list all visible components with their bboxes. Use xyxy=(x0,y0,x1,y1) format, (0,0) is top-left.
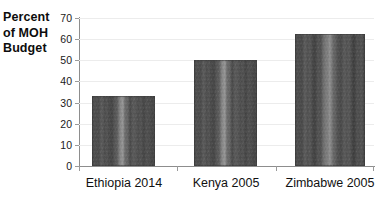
x-axis-line xyxy=(79,166,375,167)
y-tick-label-0: 0 xyxy=(66,161,72,172)
y-axis-title-line-1: Percent xyxy=(3,10,67,26)
x-tick-mark-start xyxy=(79,166,80,171)
x-tick-mark-2 xyxy=(276,166,277,171)
x-axis-label-kenya-2005: Kenya 2005 xyxy=(193,176,260,190)
y-tick-label-40: 40 xyxy=(60,76,72,87)
y-tick-label-10: 10 xyxy=(60,140,72,151)
gridline-70 xyxy=(79,18,374,19)
x-tick-mark-1 xyxy=(177,166,178,171)
y-tick-mark-20 xyxy=(75,124,79,125)
y-tick-label-30: 30 xyxy=(60,97,72,108)
x-axis-label-zimbabwe-2005: Zimbabwe 2005 xyxy=(286,176,375,190)
y-axis-title-line-2: of MOH xyxy=(3,26,67,42)
y-tick-mark-50 xyxy=(75,60,79,61)
y-tick-mark-70 xyxy=(75,18,79,19)
y-tick-label-60: 60 xyxy=(60,34,72,45)
bar-chart: Percent of MOH Budget 70 60 50 40 30 20 … xyxy=(0,0,390,200)
y-axis-title-line-3: Budget xyxy=(3,41,67,57)
bar-zimbabwe-2005[interactable] xyxy=(295,34,365,166)
x-tick-mark-end xyxy=(373,166,374,171)
bar-texture-3 xyxy=(295,34,365,166)
y-axis-title: Percent of MOH Budget xyxy=(3,10,67,57)
y-tick-label-20: 20 xyxy=(60,118,72,129)
bar-kenya-2005[interactable] xyxy=(194,60,257,166)
bar-ethiopia-2014[interactable] xyxy=(92,96,155,166)
y-tick-mark-30 xyxy=(75,103,79,104)
bar-texture-2 xyxy=(194,60,257,166)
x-axis-label-ethiopia-2014: Ethiopia 2014 xyxy=(86,176,162,190)
plot-area: 70 60 50 40 30 20 10 0 xyxy=(79,18,374,166)
bar-texture-1 xyxy=(92,96,155,166)
y-tick-mark-10 xyxy=(75,145,79,146)
y-tick-label-70: 70 xyxy=(60,13,72,24)
y-tick-label-50: 50 xyxy=(60,55,72,66)
y-tick-mark-40 xyxy=(75,81,79,82)
y-tick-mark-60 xyxy=(75,39,79,40)
